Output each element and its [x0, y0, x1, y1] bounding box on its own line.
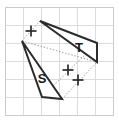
cross-1 [26, 26, 37, 37]
shape-t-label: T [75, 40, 83, 55]
cross-2 [63, 65, 74, 76]
shape-s-label: S [38, 71, 47, 86]
shape-t [40, 21, 97, 62]
cross-3 [73, 75, 84, 86]
figure-canvas: ST [0, 0, 119, 122]
geometry-diagram: ST [0, 0, 119, 122]
